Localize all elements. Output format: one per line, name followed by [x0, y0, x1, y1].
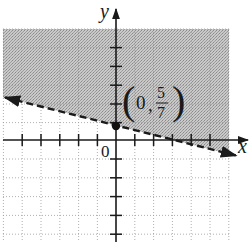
svg-text:,: ,	[148, 94, 153, 115]
fraction-denominator: 7	[157, 104, 165, 121]
point-x-value: 0	[136, 92, 146, 113]
fraction-numerator: 5	[157, 84, 165, 101]
y-axis-label: y	[98, 0, 109, 23]
svg-text:): )	[172, 78, 185, 123]
y-intercept-point	[112, 122, 120, 130]
x-axis-label: x	[237, 135, 247, 157]
inequality-graph: ( 0 , 5 7 ) x y 0	[0, 0, 251, 242]
svg-text:(: (	[122, 78, 135, 123]
origin-label: 0	[101, 142, 110, 161]
